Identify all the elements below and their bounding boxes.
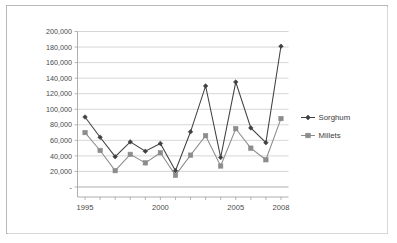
y-axis	[75, 32, 78, 198]
y-tick-label: 180,000	[46, 43, 72, 52]
x-tick-labels: 1995200020052008	[77, 203, 290, 212]
y-tick-labels: 200,000180,000160,000140,000120,000100,0…	[46, 27, 73, 192]
x-tick-label: 2008	[273, 203, 290, 212]
data-point-marker	[234, 126, 238, 130]
data-point-marker	[158, 141, 163, 146]
data-point-marker	[83, 130, 87, 134]
data-point-marker	[173, 173, 177, 177]
data-point-marker	[113, 168, 117, 172]
x-tick-label: 2005	[227, 203, 244, 212]
y-tick-label: 120,000	[46, 89, 72, 98]
chart-svg: 200,000180,000160,000140,000120,000100,0…	[0, 0, 397, 243]
data-point-marker	[188, 129, 193, 134]
legend-marker-square	[306, 133, 311, 138]
data-point-marker	[128, 152, 132, 156]
y-tick-label: 80,000	[50, 120, 72, 129]
y-tick-label: 40,000	[50, 152, 72, 161]
data-point-marker	[218, 164, 222, 168]
gridlines	[78, 32, 289, 188]
x-axis	[78, 197, 289, 200]
data-point-marker	[158, 151, 162, 155]
legend-label-millets: Millets	[319, 131, 341, 140]
data-point-marker	[98, 148, 102, 152]
chart-screenshot: 200,000180,000160,000140,000120,000100,0…	[0, 0, 397, 243]
y-tick-label: -	[70, 183, 73, 192]
chart-legend: SorghumMillets	[301, 113, 350, 140]
series-sorghum	[83, 44, 284, 173]
data-point-marker	[203, 133, 207, 137]
data-point-marker	[143, 161, 147, 165]
data-point-marker	[188, 153, 192, 157]
y-tick-label: 140,000	[46, 74, 72, 83]
series-millets	[83, 116, 283, 177]
y-tick-label: 160,000	[46, 58, 72, 67]
legend-label-sorghum: Sorghum	[319, 113, 351, 122]
series-line	[85, 46, 281, 170]
data-point-marker	[264, 158, 268, 162]
data-point-marker	[233, 80, 238, 85]
y-tick-label: 60,000	[50, 136, 72, 145]
data-point-marker	[249, 146, 253, 150]
y-tick-label: 100,000	[46, 105, 72, 114]
data-point-marker	[203, 84, 208, 89]
y-tick-label: 200,000	[46, 27, 72, 36]
data-point-marker	[279, 116, 283, 120]
y-tick-label: 20,000	[50, 167, 72, 176]
line-chart: 200,000180,000160,000140,000120,000100,0…	[0, 0, 397, 243]
data-point-marker	[279, 44, 284, 49]
x-tick-label: 1995	[77, 203, 94, 212]
x-tick-label: 2000	[152, 203, 169, 212]
legend-marker-diamond	[306, 115, 311, 120]
data-point-marker	[143, 149, 148, 154]
